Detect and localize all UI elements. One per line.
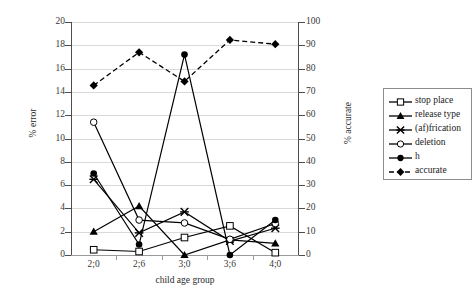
- y-axis-right-title: % accurate: [343, 83, 353, 163]
- marker-filled-circle: [181, 51, 188, 58]
- legend-item: accurate: [388, 163, 468, 177]
- marker-open-circle: [227, 236, 234, 243]
- chart-screenshot: 02468101214161820 0102030405060708090100…: [0, 0, 476, 298]
- marker-filled-triangle: [135, 202, 143, 209]
- marker-open-square: [397, 99, 403, 105]
- marker-open-square: [227, 223, 234, 230]
- legend-marker-open-circle-icon: [388, 136, 413, 148]
- marker-open-square: [136, 248, 143, 255]
- marker-open-circle: [181, 220, 188, 227]
- legend-item: (af)frication: [388, 121, 468, 135]
- chart-legend: stop placerelease type(af)fricationdelet…: [383, 88, 472, 180]
- marker-cross-x: [396, 126, 404, 133]
- marker-open-square: [272, 249, 279, 256]
- marker-open-square: [90, 246, 97, 253]
- series-lines-and-markers: [0, 0, 370, 298]
- marker-open-circle: [397, 141, 403, 147]
- legend-marker-cross-x-icon: [388, 122, 413, 134]
- legend-label: accurate: [413, 165, 447, 176]
- x-axis-title: child age group: [71, 275, 299, 285]
- legend-label: release type: [413, 109, 460, 120]
- series-line: [94, 179, 276, 241]
- marker-filled-diamond: [397, 168, 405, 176]
- legend-label: deletion: [413, 137, 446, 148]
- legend-item: release type: [388, 107, 468, 121]
- marker-open-square: [181, 234, 188, 241]
- legend-item: stop place: [388, 93, 468, 107]
- y-axis-left-title: % error: [28, 83, 38, 163]
- legend-marker-filled-circle-icon: [388, 150, 413, 162]
- marker-filled-circle: [272, 217, 279, 224]
- legend-label: h: [413, 151, 420, 162]
- marker-filled-diamond: [226, 36, 234, 44]
- marker-filled-diamond: [271, 40, 279, 48]
- marker-open-circle: [90, 119, 97, 126]
- series-line: [94, 206, 276, 255]
- marker-open-circle: [136, 217, 143, 224]
- marker-filled-circle: [136, 241, 143, 248]
- chart-plot-region: 02468101214161820 0102030405060708090100…: [0, 0, 370, 298]
- legend-marker-open-square-icon: [388, 94, 413, 106]
- marker-cross-x: [180, 208, 189, 216]
- legend-label: (af)frication: [413, 123, 461, 134]
- legend-marker-filled-diamond-icon: [388, 164, 413, 176]
- marker-filled-circle: [397, 155, 403, 161]
- marker-filled-circle: [227, 252, 234, 259]
- marker-filled-triangle: [90, 228, 98, 235]
- legend-label: stop place: [413, 95, 453, 106]
- legend-marker-filled-triangle-icon: [388, 108, 413, 120]
- legend-item: h: [388, 149, 468, 163]
- legend-item: deletion: [388, 135, 468, 149]
- marker-filled-circle: [90, 170, 97, 177]
